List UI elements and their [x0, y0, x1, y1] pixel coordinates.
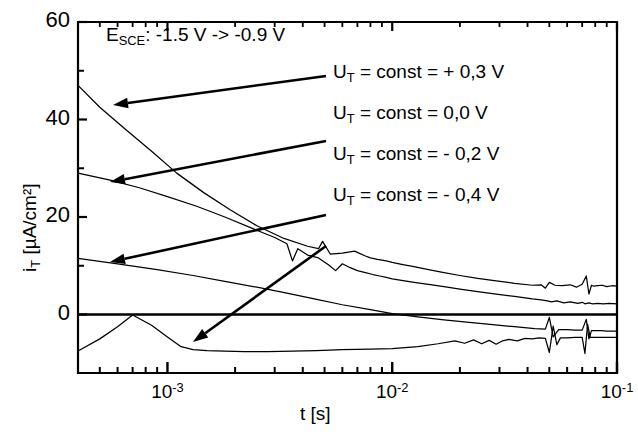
- y-tick-label-20: 20: [18, 204, 70, 226]
- x-tick-label-1e-1: 10-1: [585, 382, 638, 401]
- y-tick-label-60: 60: [18, 9, 70, 31]
- legend-item-1: UT = const = 0,0 V: [333, 103, 488, 126]
- transient-current-chart: iT [µA/cm²] t [s] ESCE: -1.5 V -> -0.9 V…: [0, 0, 638, 440]
- arrow-to-curve-2-head: [110, 174, 126, 184]
- arrow-to-curve-4-head: [193, 329, 208, 342]
- potential-step-annotation: ESCE: -1.5 V -> -0.9 V: [106, 25, 285, 48]
- y-axis-label: iT [µA/cm²]: [20, 183, 43, 272]
- arrow-to-curve-1-head: [113, 98, 129, 108]
- curve-3: [78, 315, 617, 354]
- arrow-to-curve-2: [125, 141, 326, 179]
- arrow-to-curve-4: [205, 246, 326, 333]
- legend-item-0: UT = const = + 0,3 V: [333, 62, 504, 85]
- annotation-arrows: [110, 76, 326, 342]
- curve-2: [78, 258, 617, 338]
- arrow-to-curve-3-head: [110, 254, 126, 264]
- arrow-to-curve-1: [128, 76, 326, 103]
- y-tick-label-40: 40: [18, 107, 70, 129]
- legend-item-3: UT = const = - 0,4 V: [333, 185, 499, 208]
- x-tick-label-1e-3: 10-3: [135, 382, 199, 401]
- chart-canvas: [0, 0, 638, 440]
- x-axis-label: t [s]: [300, 404, 331, 423]
- y-tick-label-0: 0: [18, 302, 70, 324]
- legend-item-2: UT = const = - 0,2 V: [333, 144, 499, 167]
- y-axis-ticks: [78, 22, 87, 315]
- x-tick-label-1e-2: 10-2: [360, 382, 424, 401]
